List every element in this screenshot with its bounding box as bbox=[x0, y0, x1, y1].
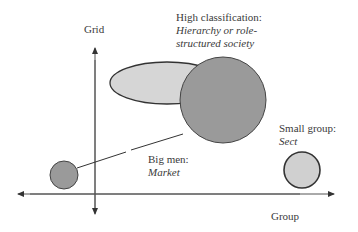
sect-circle bbox=[284, 152, 320, 188]
grid-axis-label: Grid bbox=[84, 23, 104, 36]
high-classification-title: High classification: bbox=[176, 11, 262, 24]
high-classification-line1: Hierarchy or role- bbox=[176, 24, 262, 37]
small-group-label: Small group: Sect bbox=[279, 122, 336, 148]
hierarchy-circle bbox=[180, 57, 266, 143]
small-group-subtitle: Sect bbox=[279, 135, 336, 148]
group-axis-label: Group bbox=[271, 210, 299, 223]
big-men-label: Big men: Market bbox=[148, 153, 189, 179]
big-men-title: Big men: bbox=[148, 153, 189, 166]
big-men-subtitle: Market bbox=[148, 166, 189, 179]
small-group-title: Small group: bbox=[279, 122, 336, 135]
high-classification-label: High classification: Hierarchy or role- … bbox=[176, 11, 262, 50]
small-left-circle bbox=[50, 161, 78, 189]
connector-line bbox=[77, 152, 126, 168]
high-classification-line2: structured society bbox=[176, 37, 262, 50]
